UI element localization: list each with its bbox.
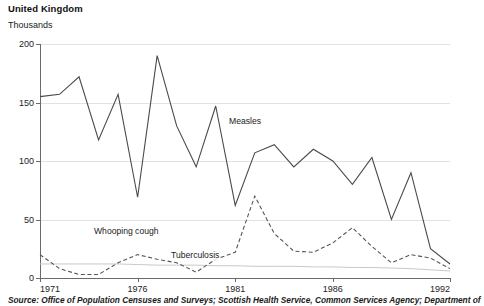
chart-container: United Kingdom Thousands 050100150200 19…	[0, 0, 484, 306]
x-tick-mark	[138, 278, 139, 282]
y-tick-label: 200	[4, 39, 34, 49]
page-title: United Kingdom	[8, 3, 83, 14]
y-axis-unit-label: Thousands	[8, 20, 53, 30]
series-label-measles: Measles	[228, 116, 262, 126]
y-tick-label: 100	[4, 156, 34, 166]
source-note: Source: Office of Population Censuses an…	[8, 295, 484, 305]
x-tick-mark	[40, 278, 41, 282]
x-tick-label: 1976	[128, 284, 148, 294]
x-tick-label: 1981	[225, 284, 245, 294]
x-tick-mark	[333, 278, 334, 282]
series-label-whooping-cough: Whooping cough	[93, 226, 160, 236]
x-tick-label: 1992	[430, 284, 450, 294]
series-line-tuberculosis	[40, 264, 450, 271]
y-tick-label: 0	[4, 273, 34, 283]
x-tick-label: 1971	[40, 284, 60, 294]
series-label-tuberculosis: Tuberculosis	[170, 250, 220, 260]
y-tick-label: 150	[4, 98, 34, 108]
y-tick-label: 50	[4, 215, 34, 225]
x-tick-label: 1986	[323, 284, 343, 294]
x-axis-line	[40, 278, 450, 279]
plot-area	[40, 44, 450, 278]
x-tick-mark	[235, 278, 236, 282]
x-tick-mark	[450, 278, 451, 282]
